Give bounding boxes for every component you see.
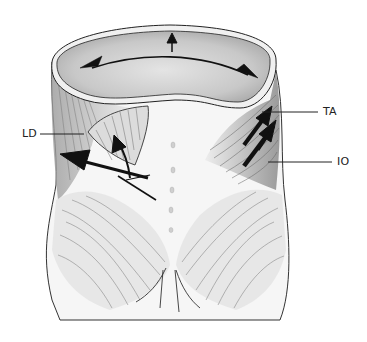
anatomy-illustration (0, 0, 367, 342)
label-ld: LD (22, 127, 37, 140)
label-io: IO (337, 155, 349, 168)
label-ta: TA (323, 105, 337, 118)
